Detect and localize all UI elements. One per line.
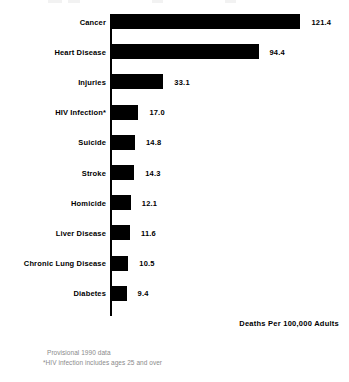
plot-area: Cancer121.4Heart Disease94.4Injuries33.1… xyxy=(0,14,349,316)
bar-value-label: 14.3 xyxy=(145,168,160,177)
clipped-top-edge-artifact xyxy=(40,0,310,4)
bar-row: Liver Disease11.6 xyxy=(0,225,349,240)
footnote-line-1: Provisional 1990 data xyxy=(47,348,162,358)
chart-footnote: Provisional 1990 data *HIV infection inc… xyxy=(47,348,162,367)
category-label: Homicide xyxy=(0,198,106,207)
bar xyxy=(112,135,135,150)
bar xyxy=(112,225,130,240)
bar xyxy=(112,195,131,210)
bar-value-label: 14.8 xyxy=(146,138,161,147)
bar-value-label: 9.4 xyxy=(138,289,149,298)
category-label: Stroke xyxy=(0,168,106,177)
bar xyxy=(112,165,134,180)
bar-row: Suicide14.8 xyxy=(0,135,349,150)
bar-row: Diabetes9.4 xyxy=(0,286,349,301)
bar-value-label: 11.6 xyxy=(141,228,156,237)
bar xyxy=(112,74,163,89)
bar-row: HIV Infection*17.0 xyxy=(0,105,349,120)
footnote-line-2: *HIV infection includes ages 25 and over xyxy=(43,358,162,368)
bar xyxy=(112,286,127,301)
bar-value-label: 94.4 xyxy=(270,47,285,56)
bar-value-label: 121.4 xyxy=(311,17,331,26)
bar-row: Chronic Lung Disease10.5 xyxy=(0,256,349,271)
bar-row: Cancer121.4 xyxy=(0,14,349,29)
category-label: Heart Disease xyxy=(0,47,106,56)
bar xyxy=(112,14,300,29)
category-label: Injuries xyxy=(0,77,106,86)
axis-title: Deaths Per 100,000 Adults xyxy=(239,319,339,328)
bar-row: Stroke14.3 xyxy=(0,165,349,180)
bar xyxy=(112,256,128,271)
bar-row: Heart Disease94.4 xyxy=(0,44,349,59)
bar xyxy=(112,105,138,120)
bar xyxy=(112,44,259,59)
category-label: Suicide xyxy=(0,138,106,147)
category-label: Liver Disease xyxy=(0,228,106,237)
category-label: Chronic Lung Disease xyxy=(0,259,106,268)
bar-value-label: 12.1 xyxy=(142,198,157,207)
bar-row: Homicide12.1 xyxy=(0,195,349,210)
category-label: Cancer xyxy=(0,17,106,26)
bar-row: Injuries33.1 xyxy=(0,74,349,89)
category-label: HIV Infection* xyxy=(0,108,106,117)
bar-value-label: 10.5 xyxy=(139,259,154,268)
category-label: Diabetes xyxy=(0,289,106,298)
bar-chart: Cancer121.4Heart Disease94.4Injuries33.1… xyxy=(0,0,349,382)
bar-value-label: 17.0 xyxy=(149,108,164,117)
bar-value-label: 33.1 xyxy=(174,77,189,86)
